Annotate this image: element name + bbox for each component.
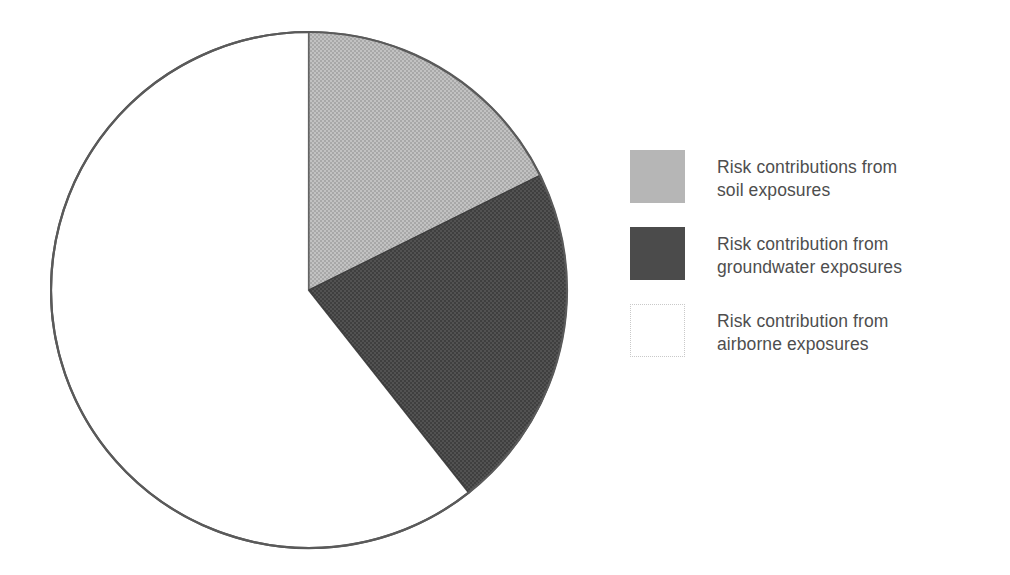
pie-chart-svg [50, 30, 575, 550]
pie-chart [50, 30, 575, 550]
legend-swatch-soil-icon [630, 150, 685, 203]
figure-root: Risk contributions from soil exposures R… [0, 0, 1010, 575]
legend-label-groundwater: Risk contribution from groundwater expos… [717, 227, 1000, 279]
chart-legend: Risk contributions from soil exposures R… [630, 150, 1000, 357]
legend-item-groundwater[interactable]: Risk contribution from groundwater expos… [630, 227, 1000, 280]
legend-swatch-airborne-icon [630, 304, 685, 357]
legend-item-airborne[interactable]: Risk contribution from airborne exposure… [630, 304, 1000, 357]
legend-item-soil[interactable]: Risk contributions from soil exposures [630, 150, 1000, 203]
legend-swatch-groundwater-icon [630, 227, 685, 280]
legend-label-airborne: Risk contribution from airborne exposure… [717, 304, 1000, 356]
legend-label-soil: Risk contributions from soil exposures [717, 150, 1000, 202]
